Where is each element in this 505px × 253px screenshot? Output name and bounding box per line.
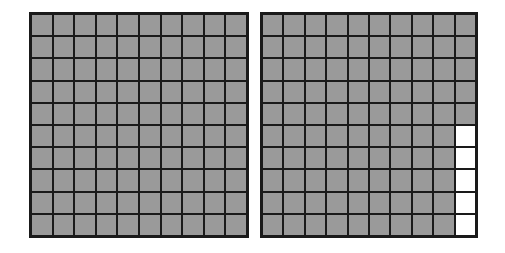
shaded-cell — [54, 193, 74, 213]
shaded-cell — [413, 15, 432, 35]
shaded-cell — [349, 37, 368, 57]
shaded-cell — [226, 215, 246, 235]
shaded-cell — [205, 104, 225, 124]
shaded-cell — [140, 193, 160, 213]
shaded-cell — [370, 148, 389, 168]
shaded-cell — [118, 193, 138, 213]
shaded-cell — [183, 148, 203, 168]
shaded-cell — [75, 193, 95, 213]
shaded-cell — [183, 170, 203, 190]
shaded-cell — [32, 59, 52, 79]
shaded-cell — [413, 148, 432, 168]
shaded-cell — [118, 59, 138, 79]
shaded-cell — [226, 82, 246, 102]
shaded-cell — [140, 215, 160, 235]
shaded-cell — [456, 104, 475, 124]
shaded-cell — [32, 215, 52, 235]
shaded-cell — [205, 148, 225, 168]
shaded-cell — [349, 170, 368, 190]
shaded-cell — [263, 148, 282, 168]
shaded-cell — [263, 170, 282, 190]
shaded-cell — [284, 126, 303, 146]
shaded-cell — [205, 82, 225, 102]
shaded-cell — [97, 148, 117, 168]
shaded-cell — [434, 126, 453, 146]
shaded-cell — [32, 170, 52, 190]
shaded-cell — [226, 170, 246, 190]
shaded-cell — [226, 59, 246, 79]
shaded-cell — [413, 126, 432, 146]
shaded-cell — [162, 37, 182, 57]
shaded-cell — [162, 148, 182, 168]
shaded-cell — [97, 59, 117, 79]
shaded-cell — [434, 104, 453, 124]
shaded-cell — [391, 148, 410, 168]
shaded-cell — [434, 170, 453, 190]
shaded-cell — [140, 15, 160, 35]
unshaded-cell — [456, 215, 475, 235]
shaded-cell — [32, 15, 52, 35]
shaded-cell — [284, 193, 303, 213]
shaded-cell — [75, 15, 95, 35]
shaded-cell — [140, 37, 160, 57]
shaded-cell — [140, 59, 160, 79]
shaded-cell — [162, 170, 182, 190]
shaded-cell — [284, 59, 303, 79]
shaded-cell — [327, 126, 346, 146]
shaded-cell — [349, 104, 368, 124]
shaded-cell — [456, 15, 475, 35]
shaded-cell — [97, 126, 117, 146]
shaded-cell — [434, 148, 453, 168]
shaded-cell — [162, 126, 182, 146]
shaded-cell — [284, 15, 303, 35]
shaded-cell — [54, 104, 74, 124]
shaded-cell — [263, 15, 282, 35]
shaded-cell — [391, 104, 410, 124]
shaded-cell — [75, 59, 95, 79]
shaded-cell — [54, 82, 74, 102]
shaded-cell — [349, 193, 368, 213]
shaded-cell — [118, 126, 138, 146]
shaded-cell — [162, 59, 182, 79]
shaded-cell — [349, 148, 368, 168]
shaded-cell — [434, 215, 453, 235]
shaded-cell — [75, 104, 95, 124]
shaded-cell — [97, 104, 117, 124]
unshaded-cell — [456, 193, 475, 213]
shaded-cell — [456, 37, 475, 57]
shaded-cell — [75, 148, 95, 168]
shaded-cell — [349, 15, 368, 35]
shaded-cell — [284, 37, 303, 57]
shaded-cell — [75, 215, 95, 235]
shaded-cell — [97, 215, 117, 235]
shaded-cell — [370, 170, 389, 190]
shaded-cell — [205, 126, 225, 146]
shaded-cell — [226, 37, 246, 57]
shaded-cell — [226, 126, 246, 146]
shaded-cell — [226, 148, 246, 168]
shaded-cell — [205, 15, 225, 35]
shaded-cell — [54, 126, 74, 146]
shaded-cell — [391, 59, 410, 79]
shaded-cell — [118, 148, 138, 168]
shaded-cell — [183, 126, 203, 146]
shaded-cell — [456, 59, 475, 79]
shaded-cell — [284, 104, 303, 124]
shaded-cell — [75, 37, 95, 57]
shaded-cell — [205, 37, 225, 57]
unshaded-cell — [456, 148, 475, 168]
shaded-cell — [75, 82, 95, 102]
shaded-cell — [349, 59, 368, 79]
shaded-cell — [183, 104, 203, 124]
shaded-cell — [54, 148, 74, 168]
shaded-cell — [391, 37, 410, 57]
shaded-cell — [140, 148, 160, 168]
shaded-cell — [413, 59, 432, 79]
shaded-cell — [370, 82, 389, 102]
shaded-cell — [413, 170, 432, 190]
shaded-cell — [434, 37, 453, 57]
shaded-cell — [370, 126, 389, 146]
shaded-cell — [413, 215, 432, 235]
shaded-cell — [205, 170, 225, 190]
shaded-cell — [327, 59, 346, 79]
